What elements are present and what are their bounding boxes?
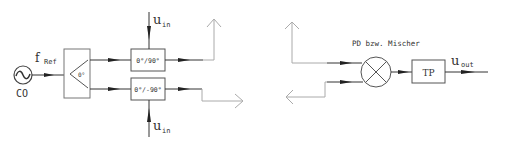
mixer-label: PD bzw. Mischer bbox=[352, 39, 420, 48]
arrow-icon bbox=[398, 70, 409, 74]
arrow-icon bbox=[178, 87, 190, 91]
lowpass-label: TP bbox=[422, 68, 434, 78]
mixer-icon bbox=[361, 57, 391, 87]
arrow-icon bbox=[44, 73, 54, 77]
arrow-icon bbox=[461, 70, 475, 74]
input-bottom-label: u bbox=[153, 118, 161, 133]
power-splitter: 0° bbox=[64, 49, 90, 98]
arrow-icon bbox=[340, 80, 352, 84]
output-label: u bbox=[451, 53, 459, 68]
connector-top-faded bbox=[292, 22, 327, 63]
arrow-icon bbox=[147, 26, 151, 40]
diagram-canvas: CO f Ref 0° 0°/90° 0°/-90° u in u in bbox=[0, 0, 505, 147]
input-bottom-sublabel: in bbox=[162, 127, 170, 135]
oscillator-label: CO bbox=[16, 88, 28, 99]
oscillator-icon bbox=[14, 66, 32, 84]
phase-shifter-top-label: 0°/90° bbox=[136, 57, 159, 65]
reference-sublabel: Ref bbox=[44, 58, 57, 66]
arrow-icon bbox=[147, 108, 151, 122]
splitter-label: 0° bbox=[78, 71, 85, 78]
phase-shifter-bottom-label: 0°/-90° bbox=[134, 86, 161, 94]
phase-shifter-bottom: 0°/-90° bbox=[131, 78, 165, 100]
arrow-icon bbox=[178, 58, 190, 62]
output-sublabel: out bbox=[461, 61, 474, 69]
reference-label: f bbox=[35, 51, 41, 65]
input-top-label: u bbox=[153, 12, 161, 27]
lowpass-filter: TP bbox=[412, 60, 445, 83]
arrow-icon bbox=[108, 87, 120, 91]
arrow-icon bbox=[340, 61, 352, 65]
input-top-sublabel: in bbox=[162, 21, 170, 29]
phase-shifter-top: 0°/90° bbox=[131, 49, 165, 71]
arrow-icon bbox=[108, 58, 120, 62]
connector-bottom-faded bbox=[286, 82, 327, 97]
